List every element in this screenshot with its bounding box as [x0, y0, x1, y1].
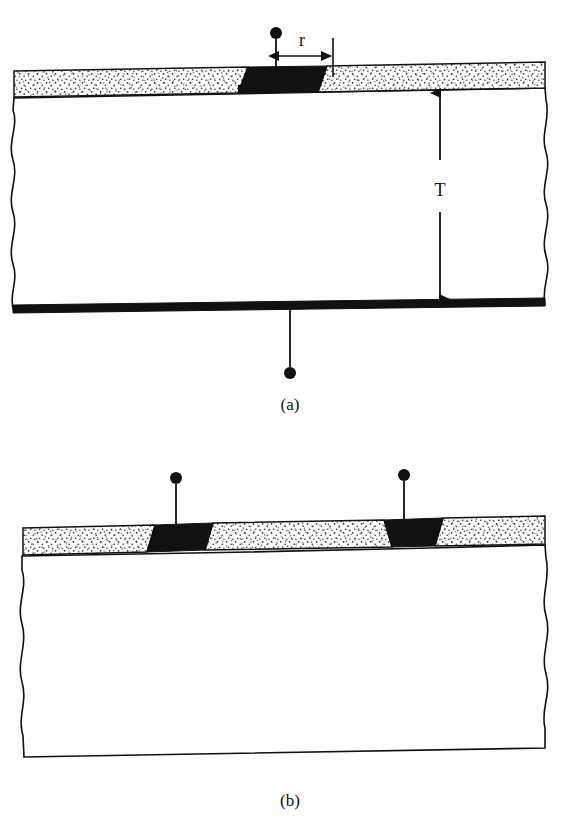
oxide-layer-left-a-texture: [14, 67, 248, 97]
panel-a: r T (a): [11, 27, 548, 414]
t-dimension-label: T: [435, 180, 446, 200]
cross-section-figure: r T (a): [0, 0, 583, 821]
r-dimension-label: r: [299, 30, 305, 50]
oxide-layer-2-b-texture: [205, 520, 392, 550]
right-terminal-dot-b: [398, 469, 410, 481]
oxide-layer-right-a-texture: [318, 62, 545, 92]
oxide-layer-3-b-texture: [435, 516, 545, 546]
front-contact-metal-left-b: [147, 523, 213, 552]
left-terminal-dot-b: [170, 472, 182, 484]
substrate-body-a: [11, 88, 548, 312]
top-terminal-dot-a: [270, 27, 282, 39]
panel-b-caption: (b): [280, 791, 300, 810]
panel-a-caption: (a): [281, 395, 300, 414]
front-contact-metal-a-base: [238, 84, 318, 93]
panel-b: (b): [20, 469, 547, 810]
front-contact-metal-right-b: [384, 518, 443, 547]
substrate-body-b: [20, 545, 547, 757]
bottom-terminal-dot-a: [284, 367, 296, 379]
figure-root: r T (a): [0, 0, 583, 821]
panel-a-substrate: [11, 88, 548, 312]
oxide-layer-1-b-texture: [23, 525, 155, 555]
